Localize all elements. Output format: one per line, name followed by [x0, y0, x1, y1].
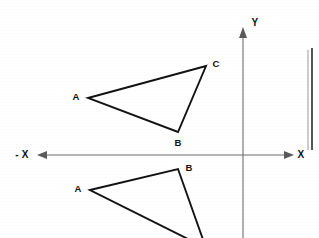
x-axis-positive-label: X [298, 150, 305, 160]
vertex-label-lower-a: A [74, 184, 81, 194]
x-axis-negative-label: - X [15, 150, 29, 160]
x-axis-right-arrowhead [284, 151, 294, 159]
figure-canvas [0, 0, 319, 238]
y-axis-group [239, 27, 247, 238]
x-axis-group [37, 151, 294, 159]
vertex-label-lower-b: B [185, 163, 192, 173]
vertex-label-upper-b: B [174, 138, 181, 148]
x-axis-left-arrowhead [37, 151, 47, 159]
y-axis-up-arrowhead [239, 27, 247, 38]
coordinate-plane-figure: - X X Y A C B A B [0, 0, 319, 238]
vertex-label-upper-a: A [72, 92, 79, 102]
lower-triangle-outline [90, 169, 206, 238]
y-axis-positive-label: Y [252, 18, 259, 28]
upper-triangle-outline [88, 66, 206, 132]
vertex-label-upper-c: C [212, 59, 219, 69]
